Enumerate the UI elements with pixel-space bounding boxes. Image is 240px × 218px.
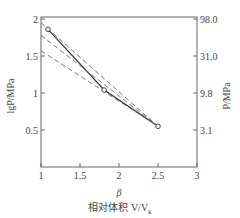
x-axis-ticks: 11.522.53 bbox=[39, 163, 200, 181]
data-series bbox=[41, 23, 160, 129]
x-tick-label: 3 bbox=[195, 170, 200, 181]
x-axis-sublabel-text: 相对体积 V/V bbox=[88, 202, 148, 213]
y-right-tick-label: 98.0 bbox=[200, 14, 218, 25]
dashed-1-line bbox=[41, 23, 158, 127]
y-right-tick-label: 31.0 bbox=[200, 51, 218, 62]
x-axis-sublabel: 相对体积 V/Vk bbox=[0, 199, 240, 216]
data-point-marker bbox=[46, 27, 51, 32]
data-point-marker bbox=[156, 124, 161, 129]
x-tick-label: 1.5 bbox=[74, 170, 87, 181]
chart: 11.522.53 0.511.52 3.19.831.098.0 lgP/MP… bbox=[0, 0, 240, 218]
y-axis-left-label: lgP/MPa bbox=[5, 78, 16, 114]
y-left-tick-label: 0.5 bbox=[26, 125, 39, 136]
x-tick-label: 2.5 bbox=[152, 170, 165, 181]
y-left-tick-label: 1 bbox=[33, 88, 38, 99]
x-tick-label: 2 bbox=[117, 170, 122, 181]
y-left-tick-label: 1.5 bbox=[26, 51, 39, 62]
x-axis-label-beta: β bbox=[116, 187, 122, 198]
y-left-tick-label: 2 bbox=[33, 14, 38, 25]
x-axis-sublabel-subscript: k bbox=[148, 208, 152, 216]
y-axis-left-ticks: 0.511.52 bbox=[26, 14, 46, 136]
y-right-tick-label: 9.8 bbox=[200, 88, 213, 99]
y-axis-right-label: P/MPa bbox=[221, 82, 232, 110]
y-right-tick-label: 3.1 bbox=[200, 125, 213, 136]
x-tick-label: 1 bbox=[39, 170, 44, 181]
dashed-2-line bbox=[41, 35, 158, 126]
data-point-marker bbox=[102, 88, 107, 93]
